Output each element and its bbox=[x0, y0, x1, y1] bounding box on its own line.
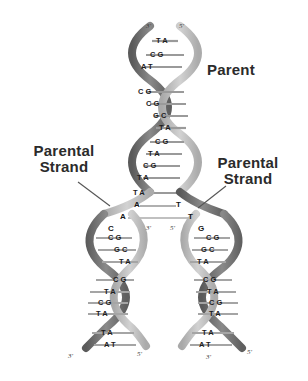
label-parent: Parent bbox=[207, 62, 255, 78]
leader-line-left bbox=[78, 182, 110, 206]
unpaired-base: A bbox=[120, 212, 126, 221]
base-pair: CG bbox=[206, 233, 222, 242]
base-pair: TA bbox=[207, 287, 221, 296]
base-pair: CG bbox=[113, 275, 129, 284]
base-pair: CG bbox=[209, 298, 225, 307]
base-pair: TA bbox=[104, 287, 118, 296]
unpaired-base: A bbox=[134, 200, 140, 209]
base-pair: TA bbox=[101, 328, 115, 337]
base-pair: TA bbox=[202, 328, 216, 337]
label-parental-strand-right: Parental Strand bbox=[196, 155, 300, 187]
terminus-daughter-left-5prime: 5' bbox=[137, 350, 142, 358]
base-pair: CG bbox=[143, 161, 159, 170]
base-pair: CG bbox=[108, 233, 124, 242]
unpaired-base: G bbox=[198, 224, 204, 233]
base-pair: TA bbox=[148, 149, 162, 158]
base-pair: TA bbox=[133, 188, 147, 197]
base-pair: TA bbox=[119, 257, 133, 266]
base-pair: CG bbox=[150, 50, 166, 59]
terminus-daughter-right-3prime: 3' bbox=[206, 353, 211, 361]
base-pair: TA bbox=[209, 309, 223, 318]
base-pair: CG bbox=[203, 275, 219, 284]
base-pair: CG bbox=[98, 298, 114, 307]
base-pair: AT bbox=[141, 62, 155, 71]
base-pair: TA bbox=[96, 309, 110, 318]
unpaired-base: T bbox=[188, 212, 193, 221]
base-pair: GC bbox=[201, 245, 217, 254]
base-pair: CG bbox=[155, 137, 171, 146]
base-pair: GC bbox=[114, 245, 130, 254]
base-pair: CG bbox=[138, 87, 154, 96]
terminus-daughter-left-3prime: 3' bbox=[68, 352, 73, 360]
base-pair: TA bbox=[156, 36, 170, 45]
terminus-daughter-right-5prime: 5' bbox=[247, 348, 252, 356]
base-pair: TA bbox=[137, 173, 151, 182]
base-pair: AT bbox=[199, 340, 213, 349]
unpaired-base: C bbox=[108, 224, 114, 233]
base-pair: CG bbox=[146, 99, 162, 108]
base-pair: TA bbox=[197, 257, 211, 266]
label-parental-strand-left: Parental Strand bbox=[14, 143, 114, 175]
terminus-fork-left-inner: 3' bbox=[146, 224, 151, 232]
terminus-parent-top-right: 5' bbox=[179, 22, 184, 30]
base-pair: TA bbox=[159, 123, 173, 132]
base-pair: AT bbox=[104, 340, 118, 349]
unpaired-base: T bbox=[176, 200, 181, 209]
terminus-parent-top-left: 3' bbox=[146, 22, 151, 30]
terminus-fork-right-inner: 5' bbox=[170, 224, 175, 232]
base-pair: GC bbox=[153, 111, 169, 120]
figure-canvas: Parent Parental Strand Parental Strand 3… bbox=[0, 0, 308, 381]
leader-line-right bbox=[198, 186, 226, 208]
